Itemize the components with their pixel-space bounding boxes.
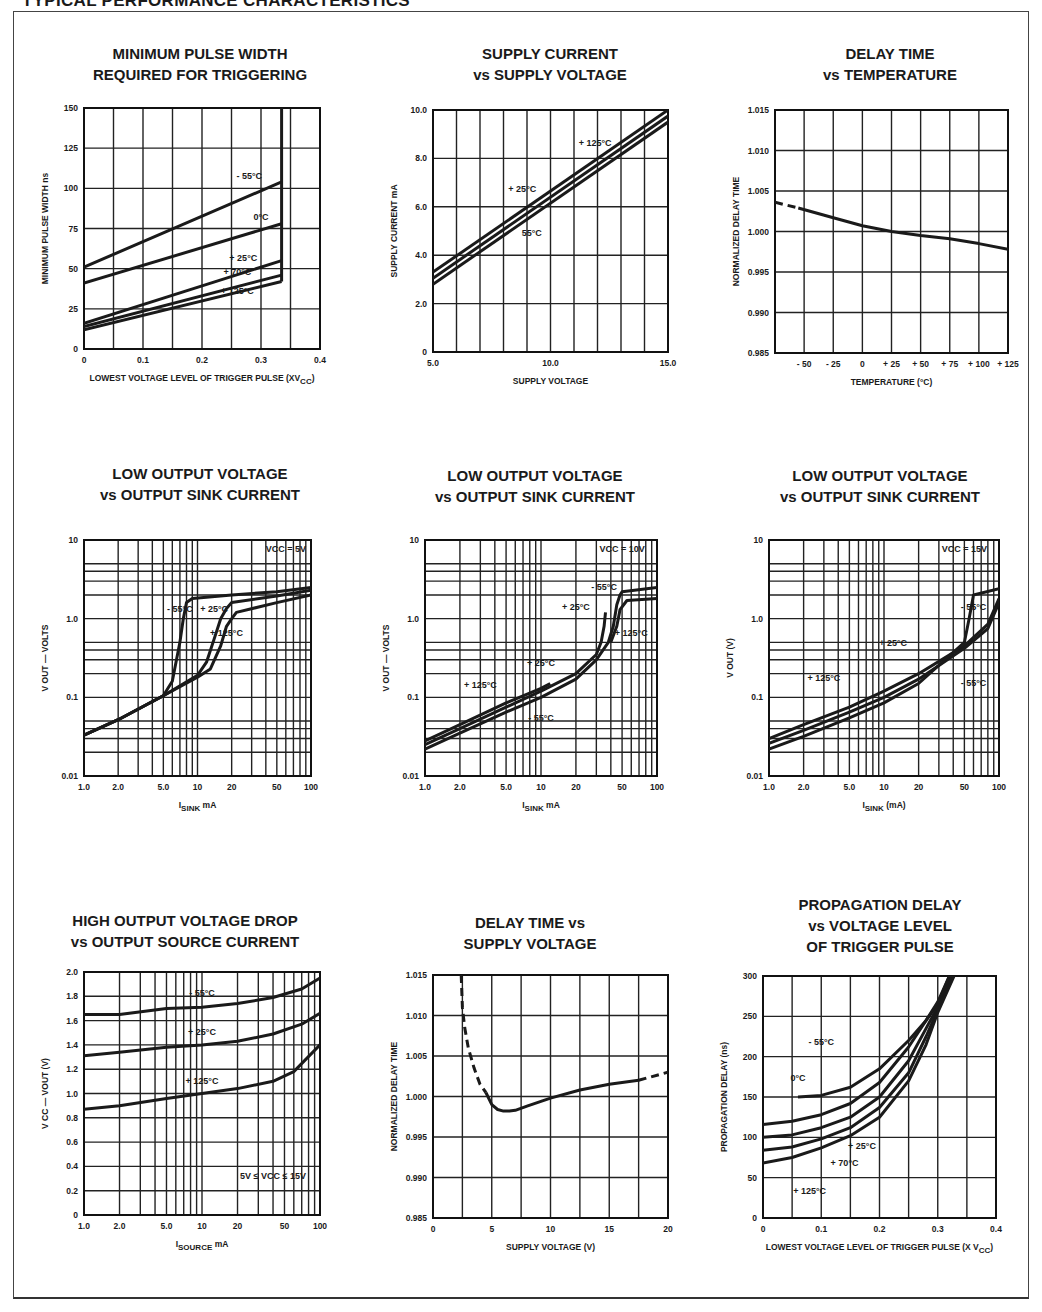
y-tick-label: 1.010 — [748, 146, 770, 156]
y-tick-label: 0.01 — [746, 771, 763, 781]
x-tick-label: 50 — [960, 782, 970, 792]
y-tick-label: 0.1 — [407, 692, 419, 702]
x-tick-label: 10 — [193, 782, 203, 792]
annotation: 55°C — [522, 228, 543, 238]
annotation: + 125°C — [210, 628, 243, 638]
y-tick-label: 0.1 — [751, 692, 763, 702]
annotation: + 25°C — [229, 253, 257, 263]
x-tick-label: 5.0 — [843, 782, 855, 792]
y-axis-label: V OUT — VOLTS — [381, 624, 391, 691]
x-tick-label: 0 — [761, 1224, 766, 1234]
annotation: - 55°C — [189, 988, 215, 998]
x-tick-label: 5.0 — [161, 1221, 173, 1231]
x-tick-label: 0 — [860, 359, 865, 369]
annotation: - 55°C — [808, 1037, 834, 1047]
chart-supply-current: 5.010.015.002.04.06.08.010.0+ 125°C+ 25°… — [389, 105, 677, 386]
x-tick-label: 0.2 — [874, 1224, 886, 1234]
annotation: + 70°C — [831, 1158, 859, 1168]
y-tick-label: 1.005 — [406, 1051, 428, 1061]
x-tick-label: - 25 — [826, 359, 841, 369]
x-tick-label: 2.0 — [798, 782, 810, 792]
y-tick-label: 6.0 — [415, 202, 427, 212]
y-tick-label: 0.985 — [748, 348, 770, 358]
y-tick-label: 0.990 — [406, 1173, 428, 1183]
series-line — [461, 975, 486, 1093]
x-tick-label: 0.2 — [196, 355, 208, 365]
y-tick-label: 150 — [64, 103, 78, 113]
x-tick-label: 0.3 — [932, 1224, 944, 1234]
x-axis-label: LOWEST VOLTAGE LEVEL OF TRIGGER PULSE (X… — [89, 373, 314, 386]
y-axis-label: V OUT (V) — [725, 638, 735, 678]
x-tick-label: 20 — [233, 1221, 243, 1231]
x-tick-label: 1.0 — [78, 1221, 90, 1231]
y-tick-label: 1.015 — [406, 970, 428, 980]
annotation: + 25°C — [508, 184, 536, 194]
y-tick-label: 0.1 — [66, 692, 78, 702]
series-line — [486, 1080, 639, 1111]
annotation: 5V ≤ VCC ≤ 15V — [240, 1171, 306, 1181]
y-tick-label: 1.2 — [66, 1064, 78, 1074]
y-tick-label: 0.01 — [61, 771, 78, 781]
y-tick-label: 0.8 — [66, 1113, 78, 1123]
x-tick-label: 15.0 — [660, 358, 677, 368]
annotation: + 125°C — [186, 1076, 219, 1086]
annotation: 0°C — [253, 212, 269, 222]
x-tick-label: 20 — [571, 782, 581, 792]
y-tick-label: 75 — [69, 224, 79, 234]
x-tick-label: 0 — [431, 1224, 436, 1234]
chart-high-out-drop: 1.02.05.010205010000.20.40.60.81.01.21.4… — [40, 967, 327, 1252]
annotation: + 125°C — [464, 680, 497, 690]
annotation: + 25°C — [188, 1027, 216, 1037]
y-tick-label: 1.6 — [66, 1016, 78, 1026]
series-line — [798, 208, 1008, 249]
annotation: - 55°C — [591, 582, 617, 592]
x-tick-label: 1.0 — [763, 782, 775, 792]
y-tick-label: 1.0 — [751, 614, 763, 624]
y-axis-label: SUPPLY CURRENT mA — [389, 184, 399, 277]
x-tick-label: 10 — [197, 1221, 207, 1231]
y-tick-label: 1.005 — [748, 186, 770, 196]
y-axis-label: V CC — VOUT (V) — [40, 1058, 50, 1129]
x-tick-label: - 50 — [797, 359, 812, 369]
y-tick-label: 1.0 — [66, 1089, 78, 1099]
chart-min-pulse-width: 00.10.20.30.40255075100125150- 55°C0°C+ … — [40, 103, 326, 386]
x-tick-label: 0 — [82, 355, 87, 365]
series-line — [763, 976, 949, 1124]
x-tick-label: 5.0 — [157, 782, 169, 792]
annotation: VCC = 10V — [599, 544, 644, 554]
y-tick-label: 0 — [73, 1210, 78, 1220]
y-tick-label: 50 — [69, 264, 79, 274]
x-tick-label: + 125 — [997, 359, 1019, 369]
y-tick-label: 0 — [422, 347, 427, 357]
x-tick-label: 10.0 — [542, 358, 559, 368]
x-axis-label: ISINK mA — [179, 800, 217, 813]
annotation: + 70°C — [223, 267, 251, 277]
annotation: - 55°C — [528, 713, 554, 723]
x-tick-label: 50 — [280, 1221, 290, 1231]
x-tick-label: + 25 — [883, 359, 900, 369]
y-tick-label: 4.0 — [415, 250, 427, 260]
x-tick-label: 5.0 — [427, 358, 439, 368]
x-tick-label: 10 — [879, 782, 889, 792]
y-axis-label: NORMALIZED DELAY TIME — [389, 1041, 399, 1151]
x-tick-label: 100 — [650, 782, 664, 792]
x-axis-label: ISINK mA — [522, 800, 560, 813]
x-tick-label: 5 — [489, 1224, 494, 1234]
series-line — [763, 976, 952, 1150]
y-tick-label: 8.0 — [415, 153, 427, 163]
y-tick-label: 0 — [73, 344, 78, 354]
y-tick-label: 10 — [69, 535, 79, 545]
y-tick-label: 10 — [754, 535, 764, 545]
y-tick-label: 0.995 — [406, 1132, 428, 1142]
x-tick-label: 100 — [313, 1221, 327, 1231]
y-tick-label: 10.0 — [410, 105, 427, 115]
annotation: VCC = 5V — [266, 544, 306, 554]
annotation: + 25°C — [848, 1141, 876, 1151]
y-tick-label: 1.0 — [407, 614, 419, 624]
x-tick-label: 50 — [617, 782, 627, 792]
y-axis-label: PROPAGATION DELAY (ns) — [719, 1042, 729, 1152]
annotation: + 25°C — [200, 604, 228, 614]
y-tick-label: 100 — [743, 1132, 757, 1142]
x-axis-label: ISOURCE mA — [176, 1239, 229, 1252]
y-tick-label: 0.985 — [406, 1213, 428, 1223]
